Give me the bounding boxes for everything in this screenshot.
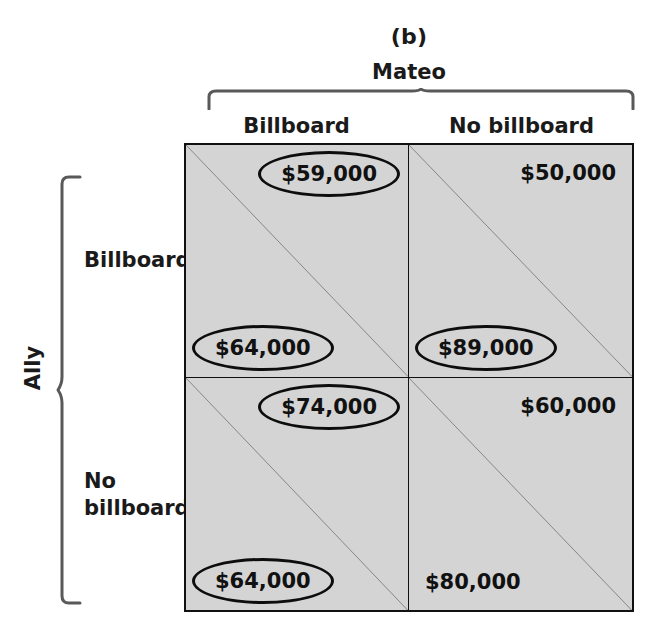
payoff-mateo-no-billboard-no-billboard: $60,000 <box>520 394 616 418</box>
payoff-ally-billboard-no-billboard: $89,000 <box>415 325 557 371</box>
row-strategy-labels: Billboard No billboard <box>82 143 182 612</box>
column-strategy-billboard: Billboard <box>184 112 409 144</box>
row-player-name: Ally <box>21 323 45 413</box>
row-brace <box>56 174 82 606</box>
payoff-ally-billboard-billboard: $64,000 <box>192 325 334 371</box>
matrix-cell-no-billboard-billboard[interactable]: $74,000 $64,000 <box>186 378 409 611</box>
payoff-matrix: $59,000 $64,000 $50,000 $89,000 $74,000 … <box>184 143 634 612</box>
payoff-mateo-billboard-billboard: $59,000 <box>258 151 400 197</box>
matrix-cell-no-billboard-no-billboard[interactable]: $60,000 $80,000 <box>409 378 632 611</box>
payoff-mateo-no-billboard-billboard: $74,000 <box>258 384 400 430</box>
matrix-cell-billboard-no-billboard[interactable]: $50,000 $89,000 <box>409 145 632 378</box>
column-brace <box>206 88 636 110</box>
row-strategy-billboard: Billboard <box>82 143 182 378</box>
column-player-name: Mateo <box>184 60 634 84</box>
payoff-ally-no-billboard-billboard: $64,000 <box>192 558 334 604</box>
column-strategy-no-billboard: No billboard <box>409 112 634 144</box>
row-strategy-no-billboard: No billboard <box>82 378 182 613</box>
payoff-ally-no-billboard-no-billboard: $80,000 <box>425 570 521 594</box>
column-strategy-labels: Billboard No billboard <box>184 112 634 144</box>
matrix-cell-billboard-billboard[interactable]: $59,000 $64,000 <box>186 145 409 378</box>
panel-title: (b) <box>184 24 634 49</box>
payoff-mateo-billboard-no-billboard: $50,000 <box>520 161 616 185</box>
